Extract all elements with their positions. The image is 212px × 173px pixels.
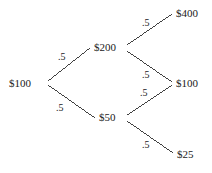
node-label-downdown: $25 (177, 149, 194, 160)
edge-up-to-updown (127, 51, 172, 82)
probability-label-down-downdown: .5 (142, 140, 150, 150)
node-label-upup: $400 (176, 8, 198, 19)
probability-label-root-down: .5 (56, 103, 64, 113)
edge-down-to-updown (127, 85, 172, 115)
binomial-tree-diagram: $100 $200 $50 $400 $100 $25 .5 .5 .5 .5 … (0, 0, 212, 173)
node-label-updown: $100 (176, 78, 198, 89)
node-label-root: $100 (9, 78, 31, 89)
probability-label-up-upup: .5 (142, 18, 150, 28)
edge-down-to-downdown (127, 121, 173, 153)
node-label-up: $200 (94, 42, 116, 53)
probability-label-down-updown: .5 (140, 88, 148, 98)
probability-label-up-updown: .5 (142, 70, 150, 80)
edge-root-to-up (48, 48, 90, 81)
edge-up-to-upup (127, 14, 172, 45)
probability-label-root-up: .5 (58, 52, 66, 62)
node-label-down: $50 (99, 112, 116, 123)
